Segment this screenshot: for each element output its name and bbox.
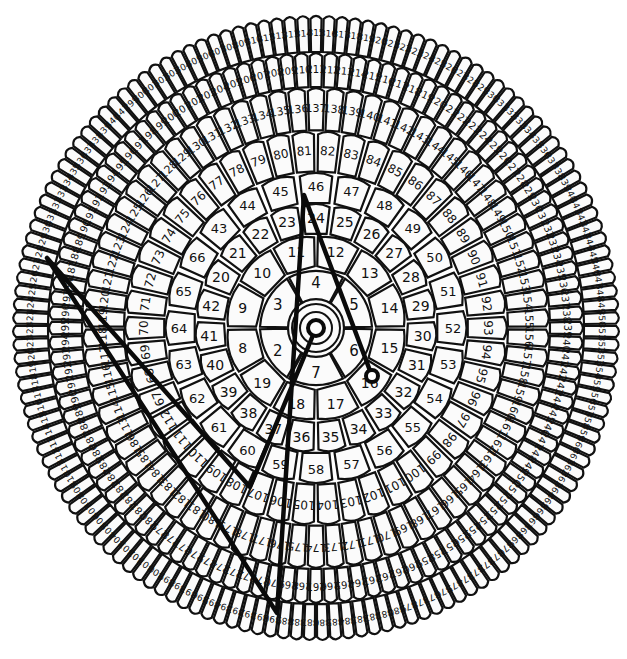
- cell-number: 40: [206, 357, 224, 373]
- cell-number: 69: [138, 344, 154, 361]
- cell-number: 51: [440, 284, 457, 299]
- cell-number: 65: [175, 284, 192, 299]
- cell-number: 27: [385, 245, 403, 261]
- cell-number: 3: [273, 296, 283, 314]
- cell-number: 36: [293, 429, 311, 445]
- start-circle-marker: [308, 320, 324, 336]
- cell-number: 94: [478, 344, 494, 361]
- cell-number: 7: [311, 364, 321, 382]
- cell-number: 19: [253, 375, 271, 391]
- cell-number: 31: [408, 357, 426, 373]
- cell-number: 10: [253, 265, 271, 281]
- cell-number: 2: [273, 342, 283, 360]
- cell-number: 48: [376, 198, 393, 213]
- cell-number: 105: [292, 497, 316, 513]
- cell-number: 21: [229, 245, 247, 261]
- cell-number: 23: [278, 214, 296, 230]
- cell-number: 8: [238, 340, 247, 356]
- cell-number: 20: [212, 269, 230, 285]
- cell-number: 53: [440, 357, 457, 372]
- cell-number: 22: [251, 226, 269, 242]
- numbered-spiral-petal-diagram: 2993003013023033043053063073083093103113…: [0, 0, 627, 659]
- cell-number: 6: [349, 342, 359, 360]
- cell-number: 46: [308, 179, 325, 194]
- cell-number: 32: [395, 384, 413, 400]
- cell-number: 66: [189, 250, 206, 265]
- cell-number: 9: [238, 300, 247, 316]
- cell-number: 93: [481, 320, 495, 335]
- cell-number: 30: [414, 328, 432, 344]
- cell-number: 63: [175, 357, 192, 372]
- cell-number: 60: [239, 443, 256, 458]
- cell-number: 54: [426, 391, 443, 406]
- cell-number: 50: [426, 250, 443, 265]
- cell-number: 47: [343, 184, 360, 199]
- cell-number: 26: [363, 226, 381, 242]
- cell-number: 41: [200, 328, 218, 344]
- cell-number: 57: [343, 457, 360, 472]
- cell-number: 39: [220, 384, 238, 400]
- cell-number: 52: [445, 321, 462, 336]
- cell-number: 14: [380, 300, 398, 316]
- cell-number: 13: [361, 265, 379, 281]
- cell-number: 45: [272, 184, 289, 199]
- cell-number: 43: [211, 221, 228, 236]
- cell-number: 56: [376, 443, 393, 458]
- cell-number: 64: [171, 321, 188, 336]
- cell-number: 34: [350, 421, 368, 437]
- cell-number: 38: [240, 405, 258, 421]
- cell-number: 92: [478, 295, 494, 312]
- cell-number: 55: [405, 420, 422, 435]
- cell-number: 15: [380, 340, 398, 356]
- cell-number: 104: [316, 497, 340, 513]
- cell-number: 5: [349, 296, 359, 314]
- cell-number: 35: [322, 429, 340, 445]
- cell-number: 81: [296, 144, 312, 159]
- cell-number: 42: [202, 298, 220, 314]
- cell-number: 29: [412, 298, 430, 314]
- cell-number: 70: [137, 320, 151, 335]
- cell-number: 49: [405, 221, 422, 236]
- end-circle-marker: [366, 370, 378, 382]
- cell-number: 25: [336, 214, 354, 230]
- cell-number: 61: [211, 420, 228, 435]
- cell-number: 28: [402, 269, 420, 285]
- cell-number: 71: [138, 295, 154, 312]
- cell-number: 17: [327, 396, 345, 412]
- cell-number: 62: [189, 391, 206, 406]
- cell-number: 4: [311, 274, 321, 292]
- cell-number: 44: [239, 198, 256, 213]
- cell-number: 58: [308, 462, 325, 477]
- cell-number: 82: [320, 144, 336, 159]
- cell-number: 33: [375, 405, 393, 421]
